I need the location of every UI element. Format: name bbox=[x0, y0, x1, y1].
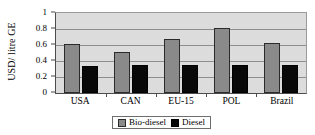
x-tick-label: CAN bbox=[105, 96, 155, 107]
legend-swatch-diesel bbox=[171, 119, 179, 127]
legend-entry-bio-diesel: Bio-diesel bbox=[118, 118, 166, 127]
legend-label-diesel: Diesel bbox=[182, 118, 205, 127]
bar-group bbox=[256, 13, 306, 93]
bar-diesel-pol bbox=[232, 65, 248, 93]
bar-bio-diesel-usa bbox=[64, 44, 80, 93]
bar-diesel-can bbox=[132, 65, 148, 93]
bar-bio-diesel-eu-15 bbox=[164, 39, 180, 93]
y-axis-title-text: USD/ litre GE bbox=[6, 22, 17, 81]
x-axis-tick-labels: USACANEU-15POLBrazil bbox=[55, 96, 307, 107]
bar-diesel-brazil bbox=[282, 65, 298, 93]
bar-bio-diesel-pol bbox=[214, 28, 230, 93]
bar-chart-figure: USD/ litre GE 00.20.40.60.81 USACANEU-15… bbox=[0, 0, 315, 135]
y-tick-label: 0.2 bbox=[36, 72, 47, 81]
y-axis-tick-labels: 00.20.40.60.81 bbox=[20, 12, 51, 92]
y-tick-label: 0.6 bbox=[36, 40, 47, 49]
legend-entry-diesel: Diesel bbox=[171, 118, 205, 127]
bar-group bbox=[106, 13, 156, 93]
bar-group bbox=[206, 13, 256, 93]
x-tick-label: Brazil bbox=[257, 96, 307, 107]
bar-diesel-eu-15 bbox=[182, 65, 198, 93]
y-axis-title: USD/ litre GE bbox=[2, 8, 20, 94]
bar-groups bbox=[56, 13, 306, 93]
plot-area bbox=[55, 12, 307, 94]
x-tick-label: EU-15 bbox=[156, 96, 206, 107]
y-tick-label: 1 bbox=[43, 8, 48, 17]
chart-legend: Bio-diesel Diesel bbox=[112, 116, 211, 129]
bar-group bbox=[156, 13, 206, 93]
x-tick-label: POL bbox=[206, 96, 256, 107]
bar-bio-diesel-brazil bbox=[264, 43, 280, 93]
y-tick-label: 0.8 bbox=[36, 24, 47, 33]
x-tick-label: USA bbox=[55, 96, 105, 107]
y-tick-label: 0.4 bbox=[36, 56, 47, 65]
bar-bio-diesel-can bbox=[114, 52, 130, 93]
legend-swatch-bio-diesel bbox=[118, 119, 126, 127]
bar-group bbox=[56, 13, 106, 93]
legend-label-bio-diesel: Bio-diesel bbox=[129, 118, 166, 127]
y-tick-label: 0 bbox=[43, 88, 48, 97]
bar-diesel-usa bbox=[82, 66, 98, 93]
